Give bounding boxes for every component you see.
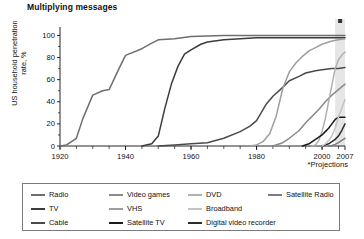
series-line-radio xyxy=(60,35,345,146)
legend-item-satellite-radio[interactable]: Satellite Radio xyxy=(268,190,334,199)
series-line-video-games xyxy=(273,84,345,146)
legend-item-vhs[interactable]: VHS xyxy=(109,204,142,213)
y-tick-label: 100 xyxy=(42,31,55,40)
projections-footnote: *Projections xyxy=(307,160,348,169)
page-title: Multiplying messages xyxy=(27,2,117,12)
legend-item-satellite-tv[interactable]: Satellite TV xyxy=(109,218,165,227)
line-chart: 020406080100192019401960198020002007 xyxy=(0,14,364,164)
legend-label: Broadband xyxy=(206,204,242,213)
projection-marker xyxy=(338,19,342,23)
x-tick-label: 1980 xyxy=(248,152,265,161)
legend-swatch-icon xyxy=(31,208,45,210)
legend-label: Digital video recorder xyxy=(206,218,276,227)
legend-swatch-icon xyxy=(109,194,123,196)
legend-item-cable[interactable]: Cable xyxy=(31,218,68,227)
y-tick-label: 40 xyxy=(47,97,55,106)
legend-item-broadband[interactable]: Broadband xyxy=(188,204,242,213)
x-tick-label: 1960 xyxy=(183,152,200,161)
legend-swatch-icon xyxy=(188,222,202,224)
series-line-cable xyxy=(158,67,345,146)
legend-label: VHS xyxy=(127,204,142,213)
y-tick-label: 80 xyxy=(47,53,55,62)
y-axis-label: US household penetration rate, % xyxy=(10,18,28,108)
legend-label: Radio xyxy=(49,190,68,199)
legend-label: TV xyxy=(49,204,58,213)
legend-swatch-icon xyxy=(188,194,202,196)
legend-label: Satellite TV xyxy=(127,218,165,227)
legend-label: Satellite Radio xyxy=(286,190,334,199)
legend-swatch-icon xyxy=(31,222,45,224)
y-tick-label: 60 xyxy=(47,75,55,84)
legend-item-dvd[interactable]: DVD xyxy=(188,190,222,199)
x-tick-label: 1940 xyxy=(117,152,134,161)
legend-swatch-icon xyxy=(268,194,282,196)
x-tick-label: 1920 xyxy=(52,152,69,161)
legend-label: DVD xyxy=(206,190,222,199)
legend-label: Cable xyxy=(49,218,68,227)
legend-swatch-icon xyxy=(188,208,202,210)
legend-item-video-games[interactable]: Video games xyxy=(109,190,170,199)
legend-label: Video games xyxy=(127,190,170,199)
legend-swatch-icon xyxy=(109,208,123,210)
y-tick-label: 20 xyxy=(47,119,55,128)
legend-swatch-icon xyxy=(31,194,45,196)
chart-plot-area: US household penetration rate, % 0204060… xyxy=(0,14,364,164)
chart-series xyxy=(60,35,345,146)
legend-item-digital-video-recorder[interactable]: Digital video recorder xyxy=(188,218,276,227)
y-tick-label: 0 xyxy=(51,142,55,151)
chart-legend: RadioTVCableVideo gamesVHSSatellite TVDV… xyxy=(22,183,340,231)
chart-tick-labels: 020406080100192019401960198020002007 xyxy=(42,31,353,161)
legend-item-radio[interactable]: Radio xyxy=(31,190,68,199)
legend-item-tv[interactable]: TV xyxy=(31,204,58,213)
legend-swatch-icon xyxy=(109,222,123,224)
chart-axes xyxy=(57,27,345,150)
